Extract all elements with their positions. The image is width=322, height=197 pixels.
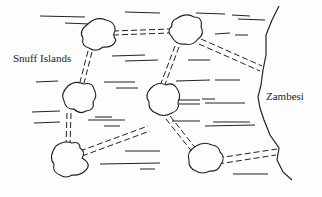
- island-b: [169, 15, 202, 45]
- snuff-islands-label: Snuff Islands: [13, 52, 71, 64]
- zambesi-label: Zambesi: [266, 90, 304, 102]
- islands: [51, 15, 223, 177]
- island-e: [51, 142, 88, 177]
- bridges-diagram: Snuff Islands Zambesi: [0, 0, 322, 197]
- island-f: [188, 143, 223, 173]
- island-c: [63, 82, 96, 112]
- island-d: [147, 84, 180, 116]
